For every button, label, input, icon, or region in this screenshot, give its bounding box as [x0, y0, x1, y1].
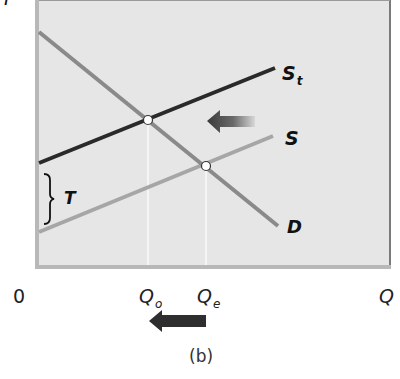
tick-qe: Qe: [197, 287, 220, 306]
tick-qo-main: Q: [139, 285, 154, 307]
tax-label: T: [64, 190, 76, 207]
original-equilibrium-point: [202, 162, 211, 171]
plot-panel: [36, 0, 390, 267]
tax-equilibrium-point: [144, 116, 153, 125]
x-axis-label: Q: [379, 287, 394, 306]
tick-qo: Qo: [139, 287, 162, 306]
quantity-decrease-arrow-icon: [149, 310, 206, 332]
tick-qe-main: Q: [197, 285, 212, 307]
supply-tax-label-main: S: [282, 62, 296, 84]
origin-label: 0: [13, 287, 25, 306]
supply-tax-label-sub: t: [297, 74, 303, 88]
tax-supply-shift-diagram: [0, 0, 400, 379]
tick-qe-sub: e: [213, 297, 220, 311]
supply-label: S: [285, 129, 299, 148]
demand-label: D: [287, 218, 302, 236]
y-axis-label: P: [4, 0, 15, 8]
tick-qo-sub: o: [155, 297, 162, 311]
figure-caption: (b): [189, 346, 213, 366]
supply-tax-label: St: [282, 64, 302, 83]
